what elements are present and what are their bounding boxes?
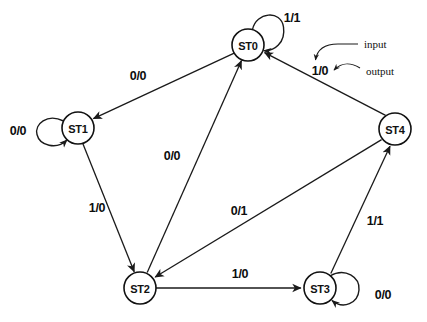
transition-label-st4-st2: 0/1 [231,204,248,218]
state-node-st4[interactable]: ST4 [379,113,411,145]
output-callout-line [334,64,360,70]
state-node-st3[interactable]: ST3 [304,272,336,304]
transition-label-st2-st0: 0/0 [164,149,181,163]
state-label-st0: ST0 [238,40,258,52]
fsm-diagram-canvas: ST0 ST1 ST4 ST2 ST3 1/1 0/0 0/0 1/0 0/0 … [0,0,427,322]
annotation-label-input: input [364,38,387,50]
state-label-st4: ST4 [385,124,406,136]
transition-st4-st0 [265,53,386,116]
fsm-svg: ST0 ST1 ST4 ST2 ST3 1/1 0/0 0/0 1/0 0/0 … [0,0,427,322]
state-node-st1[interactable]: ST1 [62,112,94,144]
transition-label-st1-st1: 0/0 [10,124,27,138]
transition-st0-st1 [93,53,234,118]
annotation-label-output: output [366,65,394,77]
state-node-st0[interactable]: ST0 [232,29,264,61]
input-callout-line [316,44,359,60]
transition-label-st3-st4: 1/1 [367,214,384,228]
transition-label-st0-st0: 1/1 [284,11,301,25]
state-node-st2[interactable]: ST2 [124,272,156,304]
state-label-st1: ST1 [68,123,88,135]
transition-st2-st0 [147,61,241,273]
transition-label-st2-st3: 1/0 [232,267,249,281]
state-label-st2: ST2 [130,283,150,295]
transition-st4-st2 [155,140,381,277]
transition-label-st4-st0: 1/0 [312,64,329,78]
transition-label-st1-st2: 1/0 [89,201,106,215]
transition-label-st3-st3: 0/0 [375,288,392,302]
transition-label-st0-st1: 0/0 [130,69,147,83]
state-label-st3: ST3 [310,283,330,295]
